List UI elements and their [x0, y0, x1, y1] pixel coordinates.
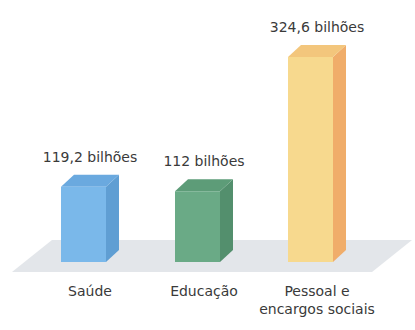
bar-side [220, 179, 233, 262]
bar-front [175, 191, 220, 262]
bar-side [333, 45, 346, 262]
bar-front [288, 57, 333, 262]
value-label: 112 bilhões [163, 153, 244, 169]
category-label: Pessoal eencargos sociais [247, 282, 387, 318]
bar-side [106, 175, 119, 262]
value-label: 119,2 bilhões [43, 149, 138, 165]
value-label: 324,6 bilhões [270, 19, 365, 35]
bar-front [61, 187, 106, 262]
